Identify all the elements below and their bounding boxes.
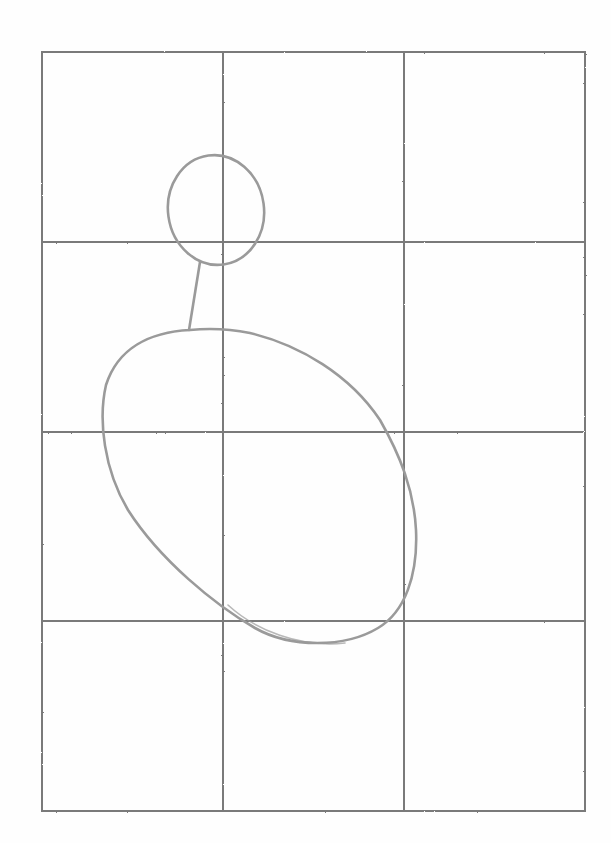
neck-line	[189, 262, 200, 330]
figure-construction	[103, 149, 417, 644]
reference-grid	[42, 52, 585, 811]
sketch-canvas	[0, 0, 611, 843]
body-oval-retrace	[228, 605, 345, 644]
body-oval	[103, 329, 417, 643]
head-circle	[161, 149, 271, 271]
